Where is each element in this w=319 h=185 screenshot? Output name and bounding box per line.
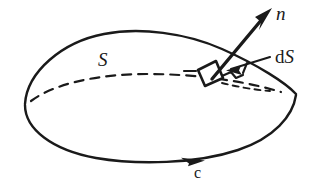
surface-integral-figure: n S dS c (0, 0, 319, 185)
boundary-curve-front-arc (25, 95, 296, 162)
figure-canvas (0, 0, 319, 185)
normal-vector-label: n (276, 4, 286, 23)
area-element-label: dS (275, 47, 294, 66)
patch-base-shade-dash (222, 83, 270, 91)
surface-label: S (98, 50, 108, 69)
area-element-surface-symbol: S (285, 46, 295, 67)
surface-dome-outline (25, 31, 296, 104)
area-element-patch (198, 61, 223, 86)
area-element-differential-d: d (275, 46, 285, 67)
boundary-curve-label: c (194, 165, 201, 181)
